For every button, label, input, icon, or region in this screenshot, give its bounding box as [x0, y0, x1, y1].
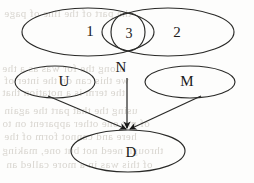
label-region-two: 2: [173, 25, 181, 40]
figure-canvas: the part of the line of page along the f…: [0, 0, 254, 183]
label-node-m: M: [180, 74, 193, 89]
edge-m-to-d: [130, 96, 201, 129]
label-node-n: N: [116, 60, 127, 75]
edge-u-to-d: [48, 96, 126, 129]
label-region-three: 3: [126, 27, 133, 41]
ellipse-region-two: [102, 8, 234, 56]
label-node-u: U: [59, 74, 70, 89]
label-node-d: D: [126, 145, 137, 160]
label-region-one: 1: [86, 24, 94, 39]
ellipse-node-u: [15, 66, 95, 98]
